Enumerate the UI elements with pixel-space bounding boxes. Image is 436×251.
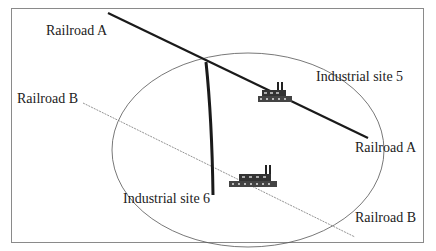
label-industrial-site-5: Industrial site 5 xyxy=(316,69,403,85)
label-railroad-a-top: Railroad A xyxy=(46,23,107,39)
factory-icon-site-6 xyxy=(229,165,277,187)
label-railroad-a-right: Railroad A xyxy=(355,140,416,156)
label-railroad-b-left: Railroad B xyxy=(17,91,78,107)
railroad-b-line xyxy=(83,103,355,237)
factory-icon-site-5 xyxy=(258,82,292,102)
label-railroad-b-right: Railroad B xyxy=(355,210,416,226)
label-industrial-site-6: Industrial site 6 xyxy=(123,191,210,207)
rail-spur-line xyxy=(206,62,213,195)
